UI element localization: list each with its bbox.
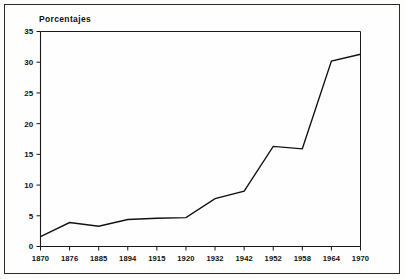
- x-axis-tick-label: 1876: [61, 254, 78, 263]
- x-axis-tick-label: 1958: [294, 254, 311, 263]
- y-axis-tick-group: 05101520253035: [24, 27, 40, 251]
- x-axis-tick-label: 1885: [90, 254, 108, 263]
- x-axis-tick-label: 1870: [32, 254, 49, 263]
- y-axis-tick-label: 25: [24, 89, 34, 98]
- x-axis-tick-group: 1870187618851894191519201932194219521958…: [32, 247, 369, 263]
- y-axis-tick-label: 0: [29, 242, 34, 251]
- x-axis-tick-label: 1894: [119, 254, 137, 263]
- axis-lines: [41, 32, 361, 247]
- y-axis-tick-label: 30: [24, 58, 34, 67]
- x-axis-tick-label: 1920: [177, 254, 194, 263]
- data-series-line: [41, 54, 361, 236]
- x-axis-tick-label: 1964: [323, 254, 341, 263]
- y-axis-tick-label: 15: [24, 150, 34, 159]
- x-axis-tick-label: 1915: [148, 254, 166, 263]
- x-axis-tick-label: 1942: [235, 254, 252, 263]
- x-axis-tick-label: 1952: [265, 254, 282, 263]
- x-axis-tick-label: 1932: [206, 254, 223, 263]
- y-axis-tick-label: 35: [24, 27, 34, 36]
- line-chart-plot: 05101520253035 1870187618851894191519201…: [0, 0, 405, 279]
- y-axis-tick-label: 20: [24, 120, 34, 129]
- y-axis-tick-label: 10: [24, 181, 34, 190]
- chart-figure: Porcentajes 05101520253035 1870187618851…: [0, 0, 405, 279]
- y-axis-tick-label: 5: [29, 212, 34, 221]
- x-axis-tick-label: 1970: [352, 254, 369, 263]
